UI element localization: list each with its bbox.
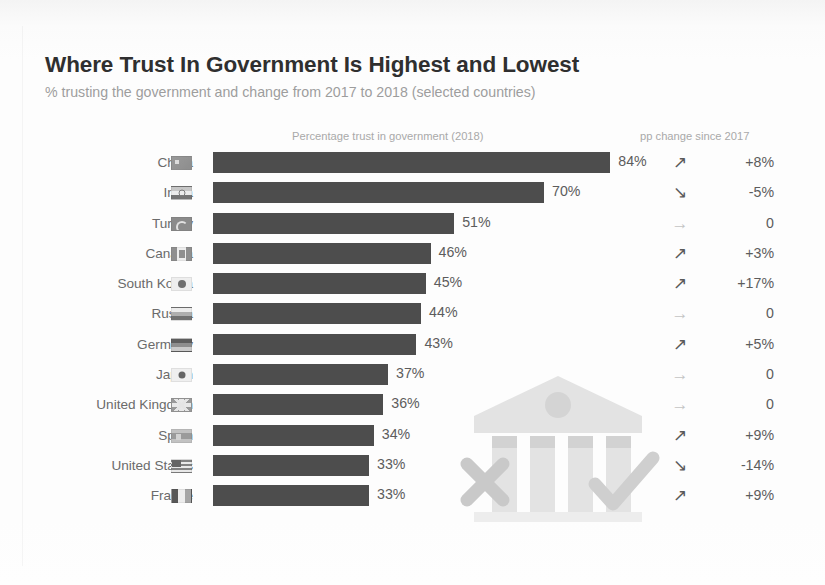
bar-track <box>213 425 643 446</box>
change-value-label: -14% <box>694 457 774 473</box>
change-arrow-down-icon: ↘ <box>668 455 692 477</box>
change-cell: ↗+17% <box>668 273 786 295</box>
change-value-label: +8% <box>694 154 774 170</box>
change-value-label: +9% <box>694 487 774 503</box>
russia-flag-icon <box>171 307 192 321</box>
chart-row: Canada46%↗+3% <box>0 241 825 271</box>
change-cell: →0 <box>668 364 786 386</box>
south-korea-flag-icon <box>171 277 192 291</box>
bar-track <box>213 364 643 385</box>
bar-track <box>213 455 643 476</box>
bar <box>213 425 374 446</box>
chart-row: Russia44%→0 <box>0 301 825 331</box>
bar-value-label: 33% <box>377 456 405 472</box>
change-cell: →0 <box>668 213 786 235</box>
bar-track <box>213 485 643 506</box>
bar-value-label: 70% <box>552 183 580 199</box>
united-kingdom-flag-icon <box>171 398 192 412</box>
change-cell: ↘-5% <box>668 182 786 204</box>
change-value-label: 0 <box>694 366 774 382</box>
change-value-label: +17% <box>694 275 774 291</box>
change-value-label: +3% <box>694 245 774 261</box>
change-cell: ↗+9% <box>668 485 786 507</box>
change-value-label: 0 <box>694 305 774 321</box>
bar <box>213 243 431 264</box>
change-arrow-flat-icon: → <box>668 213 692 235</box>
bar-value-label: 44% <box>429 304 457 320</box>
bar-track <box>213 394 643 415</box>
page-title: Where Trust In Government Is Highest and… <box>45 52 579 78</box>
change-value-label: +9% <box>694 427 774 443</box>
bar <box>213 485 369 506</box>
change-cell: →0 <box>668 394 786 416</box>
bar-value-label: 36% <box>391 395 419 411</box>
bar-track <box>213 152 643 173</box>
change-arrow-flat-icon: → <box>668 394 692 416</box>
change-value-label: 0 <box>694 396 774 412</box>
spain-flag-icon <box>171 429 192 443</box>
change-arrow-flat-icon: → <box>668 303 692 325</box>
change-arrow-up-icon: ↗ <box>668 334 692 356</box>
chart-row: Germany43%↗+5% <box>0 332 825 362</box>
bar-track <box>213 243 643 264</box>
bar-value-label: 43% <box>424 335 452 351</box>
change-arrow-up-icon: ↗ <box>668 425 692 447</box>
bar <box>213 182 544 203</box>
chart-page: Where Trust In Government Is Highest and… <box>0 0 825 585</box>
chart-row: Spain34%↗+9% <box>0 423 825 453</box>
chart-row: United States33%↘-14% <box>0 453 825 483</box>
france-flag-icon <box>171 489 192 503</box>
bar <box>213 364 388 385</box>
bar-track <box>213 303 643 324</box>
bar-track <box>213 213 643 234</box>
change-arrow-up-icon: ↗ <box>668 243 692 265</box>
bars-column-header: Percentage trust in government (2018) <box>292 130 484 142</box>
change-value-label: -5% <box>694 184 774 200</box>
bar <box>213 455 369 476</box>
change-cell: ↗+8% <box>668 152 786 174</box>
change-arrow-up-icon: ↗ <box>668 273 692 295</box>
change-cell: →0 <box>668 303 786 325</box>
bar <box>213 273 426 294</box>
bar <box>213 152 610 173</box>
bar-value-label: 51% <box>462 214 490 230</box>
japan-flag-icon <box>171 368 192 382</box>
change-value-label: +5% <box>694 336 774 352</box>
change-arrow-down-icon: ↘ <box>668 182 692 204</box>
bar-value-label: 37% <box>396 365 424 381</box>
bar-track <box>213 273 643 294</box>
germany-flag-icon <box>171 338 192 352</box>
chart-row: South Korea45%↗+17% <box>0 271 825 301</box>
bar <box>213 213 454 234</box>
india-flag-icon <box>171 186 192 200</box>
bar <box>213 303 421 324</box>
bar-value-label: 46% <box>439 244 467 260</box>
bar <box>213 394 383 415</box>
change-cell: ↗+3% <box>668 243 786 265</box>
change-column-header: pp change since 2017 <box>640 130 749 142</box>
chart-row: India70%↘-5% <box>0 180 825 210</box>
change-value-label: 0 <box>694 215 774 231</box>
chart-row: United Kingdom36%→0 <box>0 392 825 422</box>
change-cell: ↗+9% <box>668 425 786 447</box>
page-subtitle: % trusting the government and change fro… <box>45 84 536 100</box>
bar-value-label: 34% <box>382 426 410 442</box>
chart-row: China84%↗+8% <box>0 150 825 180</box>
turkey-flag-icon <box>171 217 192 231</box>
canada-flag-icon <box>171 247 192 261</box>
bar-value-label: 33% <box>377 486 405 502</box>
bar-value-label: 84% <box>618 153 646 169</box>
change-arrow-up-icon: ↗ <box>668 152 692 174</box>
chart-row: Japan37%→0 <box>0 362 825 392</box>
bar-chart-rows: China84%↗+8%India70%↘-5%Turkey51%→0Canad… <box>0 150 825 514</box>
change-arrow-flat-icon: → <box>668 364 692 386</box>
chart-row: Turkey51%→0 <box>0 211 825 241</box>
bar <box>213 334 416 355</box>
china-flag-icon <box>171 156 192 170</box>
united-states-flag-icon <box>171 459 192 473</box>
change-cell: ↗+5% <box>668 334 786 356</box>
bar-value-label: 45% <box>434 274 462 290</box>
change-cell: ↘-14% <box>668 455 786 477</box>
chart-row: France33%↗+9% <box>0 483 825 513</box>
change-arrow-up-icon: ↗ <box>668 485 692 507</box>
